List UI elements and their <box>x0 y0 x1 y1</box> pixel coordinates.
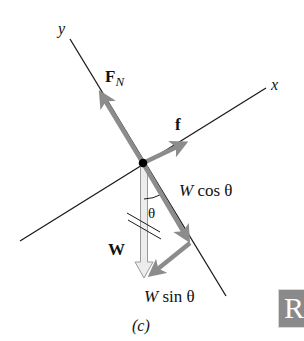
angle-label: θ <box>148 205 155 221</box>
normal-force-label-sub: N <box>114 74 125 89</box>
weight-sin-component-arrow <box>154 243 190 272</box>
weight-cos-label-rest: cos θ <box>193 181 232 200</box>
normal-force-label: FN <box>105 67 125 89</box>
normal-force-label-main: F <box>105 67 115 86</box>
figure-caption: (c) <box>132 317 150 335</box>
corner-tab-text: R <box>284 291 304 325</box>
body-point-dot <box>139 159 148 168</box>
x-axis-label: x <box>270 76 278 93</box>
friction-label: f <box>175 115 181 134</box>
weight-cos-label: W cos θ <box>179 181 232 200</box>
weight-sin-label: W sin θ <box>144 287 195 306</box>
free-body-diagram: y x FN f W θ W cos θ W sin θ (c) <box>0 0 304 341</box>
weight-arrow <box>135 166 153 278</box>
weight-sin-label-rest: sin θ <box>158 287 194 306</box>
normal-force-arrow <box>103 97 143 163</box>
friction-arrow <box>143 145 181 163</box>
y-axis-label: y <box>56 20 66 38</box>
weight-label: W <box>108 240 125 259</box>
corner-tab: R <box>278 289 304 328</box>
